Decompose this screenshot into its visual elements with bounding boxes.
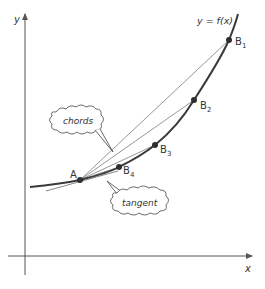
curve-label: y = f(x) <box>196 15 233 26</box>
label-b4: B4 <box>123 165 135 179</box>
point-b1 <box>226 37 232 43</box>
point-b2 <box>191 97 197 103</box>
chords-cloud-tail <box>95 129 113 152</box>
tangent-callout: tangent <box>107 181 169 215</box>
point-b3 <box>152 142 158 148</box>
label-b3: B3 <box>160 144 171 158</box>
label-b1: B1 <box>235 36 246 50</box>
label-b2: B2 <box>200 100 211 114</box>
x-axis-label: x <box>244 263 251 274</box>
chords-callout: chords <box>50 105 114 152</box>
diagram-canvas: y x y = f(x) A B1 B2 B3 B4 <box>0 0 265 289</box>
tangent-callout-text: tangent <box>122 198 158 208</box>
y-axis-label: y <box>13 14 21 25</box>
point-b4 <box>116 164 122 170</box>
chord-a-b3 <box>80 145 155 180</box>
diagram-svg: y x y = f(x) A B1 B2 B3 B4 <box>0 0 265 289</box>
point-a <box>77 177 83 183</box>
label-a: A <box>70 169 77 180</box>
chords-callout-text: chords <box>63 116 94 126</box>
